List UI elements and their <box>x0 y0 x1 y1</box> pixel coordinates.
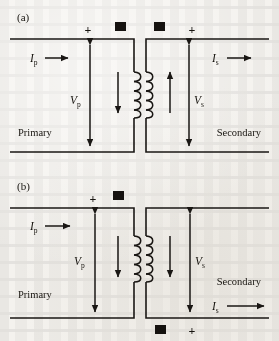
panel-a-primary-coil <box>134 72 141 118</box>
panel-b-primary-polarity: + <box>90 192 97 206</box>
panel-b-primary-coil <box>134 236 141 282</box>
panel-b-primary-current-label: Ip <box>29 220 38 235</box>
panel-b-primary-dot-marker <box>113 191 124 200</box>
panel-b-secondary-polarity: + <box>189 324 196 338</box>
panel-a-secondary-coil <box>146 72 153 118</box>
panel-a-label: (a) <box>17 11 30 24</box>
panel-a-secondary-polarity: + <box>189 23 196 37</box>
panel-a-primary-top-wire <box>10 39 134 72</box>
panel-a-primary-dot-marker <box>115 22 126 31</box>
panel-a-primary-voltage-label: Vp <box>70 94 81 109</box>
panel-a-secondary-current-label: Is <box>211 52 219 67</box>
panel-a-secondary-dot-marker <box>154 22 165 31</box>
panel-b-secondary-bottom-wire <box>146 282 269 318</box>
panel-b: (b) + + Vp <box>0 170 279 341</box>
panel-b-secondary-top-wire <box>146 208 269 236</box>
panel-a-primary-polarity: + <box>85 23 92 37</box>
panel-b-secondary-label: Secondary <box>217 276 262 287</box>
panel-a-primary-label: Primary <box>18 127 53 138</box>
panel-b-primary-label: Primary <box>18 289 53 300</box>
panel-b-secondary-dot-marker <box>155 325 166 334</box>
panel-b-secondary-voltage-label: Vs <box>195 255 205 270</box>
panel-b-label: (b) <box>17 180 30 193</box>
panel-b-secondary-current-label: Is <box>211 300 219 315</box>
panel-a: (a) + + Vp <box>0 0 279 170</box>
panel-b-primary-top-wire <box>10 208 134 236</box>
panel-a-secondary-label: Secondary <box>217 127 262 138</box>
panel-b-primary-voltage-label: Vp <box>74 255 85 270</box>
panel-a-secondary-voltage-label: Vs <box>194 94 204 109</box>
figure-transformer-diagrams: (a) + + Vp <box>0 0 279 341</box>
panel-a-secondary-top-wire <box>146 39 269 72</box>
panel-b-primary-bottom-wire <box>10 282 134 318</box>
panel-b-secondary-coil <box>146 236 153 282</box>
panel-a-primary-current-label: Ip <box>29 52 38 67</box>
